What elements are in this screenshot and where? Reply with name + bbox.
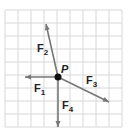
force-diagram: F1F2F3F4 P <box>0 0 132 137</box>
point-p-label: P <box>61 63 69 75</box>
vector-label-f2: F2 <box>37 42 49 57</box>
arrowhead-icon <box>56 121 61 127</box>
